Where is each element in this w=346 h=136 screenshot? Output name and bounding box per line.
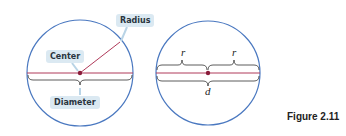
r-brace-right [208, 60, 259, 70]
radius-label: Radius [116, 14, 154, 27]
figure-caption: Figure 2.11 [287, 111, 339, 122]
radius-line [80, 42, 120, 73]
diameter-brace [28, 75, 132, 85]
center-dot [78, 71, 82, 75]
radius-pointer [121, 27, 127, 41]
right-center-dot [206, 71, 210, 75]
figure-2-11: Radius Center Diameter r r d Figure 2.11 [0, 0, 346, 136]
r-left-label: r [181, 46, 185, 58]
center-label: Center [46, 50, 84, 63]
d-label: d [205, 85, 211, 97]
center-pointer [72, 63, 78, 71]
r-right-label: r [232, 46, 236, 58]
r-brace-left [157, 60, 207, 70]
diameter-label: Diameter [50, 96, 100, 109]
